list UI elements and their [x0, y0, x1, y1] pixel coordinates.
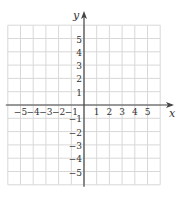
x-tick-label: −2: [52, 107, 65, 117]
y-tick-label: −5: [69, 168, 83, 178]
y-tick-label: 4: [76, 48, 82, 58]
x-tick-label: 3: [119, 107, 125, 117]
y-tick-label: 3: [76, 61, 82, 71]
x-axis-label: x: [169, 107, 176, 120]
y-tick-label: −1: [69, 114, 82, 124]
y-axis-label: y: [72, 9, 80, 22]
y-tick-label: −3: [69, 141, 83, 151]
x-tick-label: 2: [107, 107, 113, 117]
y-tick-label: 1: [76, 88, 82, 98]
x-tick-label: 5: [145, 107, 151, 117]
coordinate-plane: xy−5−4−3−2−11234554321−1−2−3−4−5: [0, 0, 184, 197]
x-tick-label: −3: [39, 107, 53, 117]
x-tick-label: 4: [132, 107, 138, 117]
y-tick-label: −4: [69, 154, 83, 164]
y-tick-label: 5: [76, 35, 82, 45]
x-tick-label: −5: [14, 107, 28, 117]
y-tick-label: −2: [69, 128, 82, 138]
x-tick-label: −4: [27, 107, 41, 117]
y-tick-label: 2: [76, 74, 82, 84]
x-tick-label: 1: [94, 107, 100, 117]
